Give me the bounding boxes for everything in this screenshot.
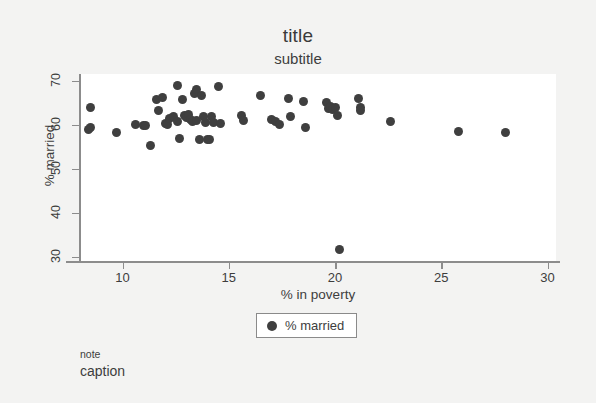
scatter-point [86, 103, 95, 112]
scatter-point [158, 93, 167, 102]
chart-title: title [0, 25, 596, 47]
y-tick-label: 30 [49, 244, 63, 268]
scatter-points-layer [80, 74, 556, 261]
y-tick-mark [72, 257, 79, 259]
scatter-point [175, 134, 184, 143]
filled-circle-marker-icon [267, 321, 277, 331]
figure-canvas: title subtitle 3040506070 1015202530 % m… [0, 0, 596, 403]
x-tick-mark [441, 262, 443, 269]
scatter-point [239, 116, 248, 125]
scatter-point [331, 103, 340, 112]
scatter-point [214, 82, 223, 91]
chart-legend[interactable]: % married [256, 313, 357, 338]
chart-caption: caption [80, 363, 125, 379]
scatter-point [301, 123, 310, 132]
plot-area [80, 74, 556, 261]
y-tick-mark [72, 81, 79, 83]
scatter-point [205, 135, 214, 144]
chart-subtitle: subtitle [0, 50, 596, 67]
scatter-point [286, 112, 295, 121]
scatter-point [146, 141, 155, 150]
scatter-point [197, 91, 206, 100]
scatter-point [173, 81, 182, 90]
scatter-point [256, 91, 265, 100]
x-tick-mark [335, 262, 337, 269]
x-tick-mark [548, 262, 550, 269]
y-tick-mark [72, 169, 79, 171]
x-tick-label: 20 [315, 270, 355, 285]
scatter-point [454, 127, 463, 136]
x-tick-label: 15 [209, 270, 249, 285]
scatter-point [216, 119, 225, 128]
chart-note: note [80, 348, 100, 360]
scatter-point [178, 95, 187, 104]
x-tick-mark [229, 262, 231, 269]
scatter-point [335, 245, 344, 254]
scatter-point [501, 128, 510, 137]
x-axis-line [66, 261, 560, 263]
y-axis-line [79, 74, 81, 262]
scatter-point [386, 117, 395, 126]
y-tick-label: 70 [49, 68, 63, 92]
x-tick-label: 10 [103, 270, 143, 285]
x-tick-label: 25 [421, 270, 461, 285]
y-axis-label: % married [42, 96, 57, 216]
scatter-point [356, 106, 365, 115]
scatter-point [354, 94, 363, 103]
x-axis-label: % in poverty [80, 287, 556, 302]
scatter-point [112, 128, 121, 137]
scatter-point [154, 106, 163, 115]
scatter-point [141, 121, 150, 130]
scatter-point [333, 111, 342, 120]
x-tick-mark [123, 262, 125, 269]
scatter-point [275, 120, 284, 129]
scatter-point [84, 125, 93, 134]
y-tick-mark [72, 125, 79, 127]
legend-entry-label: % married [285, 318, 344, 333]
x-tick-label: 30 [528, 270, 568, 285]
y-tick-mark [72, 213, 79, 215]
scatter-point [299, 97, 308, 106]
legend-entry: % married [267, 318, 344, 333]
scatter-point [284, 94, 293, 103]
